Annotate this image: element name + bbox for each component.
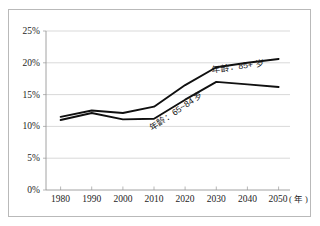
x-tick-label-2000: 2000 [113,194,132,204]
x-tick-label-1990: 1990 [82,194,101,204]
y-tick-label-0: 0% [27,185,40,195]
series-annotation-85-plus: 年龄：85+ 岁 [211,57,265,75]
x-axis-tick-labels: 1980 1990 2000 2010 2020 2030 2040 2050 … [51,194,308,204]
y-tick-label-15: 15% [23,90,41,100]
x-tick-label-2030: 2030 [207,194,226,204]
line-chart: 0% 5% 10% 15% 20% 25% 1980 1990 2000 201… [0,0,320,226]
x-tick-label-2050: 2050 [269,194,288,204]
x-tick-label-2010: 2010 [145,194,164,204]
y-axis-tick-labels: 0% 5% 10% 15% 20% 25% [23,26,41,195]
series-annotation-65-84: 年龄：65~84 岁 [147,89,205,133]
y-tick-label-20: 20% [23,58,41,68]
x-axis-unit-label: ( 年 ) [289,194,308,204]
gridlines [46,31,290,158]
y-tick-label-10: 10% [23,121,41,131]
y-tick-marks [43,31,46,190]
x-tick-label-2020: 2020 [176,194,195,204]
x-tick-label-2040: 2040 [238,194,257,204]
chart-figure: 0% 5% 10% 15% 20% 25% 1980 1990 2000 201… [0,0,320,226]
x-tick-marks [61,187,279,191]
x-tick-label-1980: 1980 [51,194,70,204]
y-tick-label-5: 5% [27,153,40,163]
y-tick-label-25: 25% [23,26,41,36]
